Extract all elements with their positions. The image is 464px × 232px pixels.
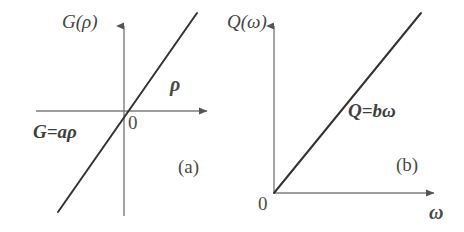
panel-b-tag: (b) [396,155,418,174]
panel-b-y-axis-label: Q(ω) [227,12,267,31]
panel-a-x-axis-label: ρ [170,74,180,94]
panel-a-tag: (a) [178,157,199,176]
panel-b-origin-label: 0 [258,194,268,213]
panel-b-line-equation-label: Q=bω [348,101,396,120]
figure-two-linear-plots: G(ρ) ρ 0 G=aρ (a) Q(ω) ω 0 Q=bω (b) [0,0,464,232]
panel-a-origin-label: 0 [128,113,138,132]
panel-b-x-axis-label: ω [429,202,443,222]
panel-a-line-equation-label: G=aρ [33,122,77,141]
panel-a-y-axis-label: G(ρ) [62,12,98,31]
